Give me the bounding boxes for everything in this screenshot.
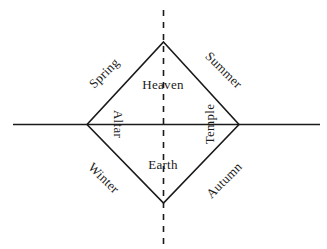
diagram-graphics — [0, 0, 327, 249]
label-heaven: Heaven — [142, 78, 184, 91]
label-altar: Altar — [112, 110, 125, 138]
label-temple: Temple — [203, 104, 216, 145]
diagram-canvas: Heaven Earth Altar Temple Spring Summer … — [0, 0, 327, 249]
label-earth: Earth — [148, 158, 178, 171]
